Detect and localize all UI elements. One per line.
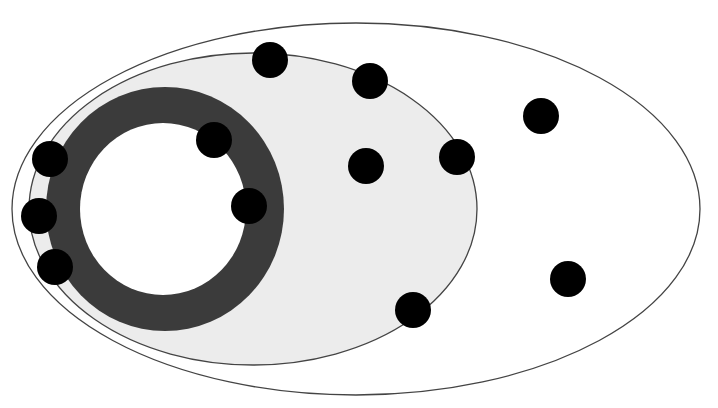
nested-ellipses-diagram <box>0 0 718 408</box>
diagram-canvas <box>0 0 718 408</box>
dot <box>348 148 384 184</box>
dot <box>439 139 475 175</box>
dot <box>550 261 586 297</box>
dot <box>252 42 288 78</box>
dot <box>196 122 232 158</box>
dot <box>21 198 57 234</box>
dot <box>395 292 431 328</box>
dot <box>523 98 559 134</box>
dot <box>352 63 388 99</box>
dot <box>231 188 267 224</box>
dot <box>32 141 68 177</box>
dot <box>37 249 73 285</box>
